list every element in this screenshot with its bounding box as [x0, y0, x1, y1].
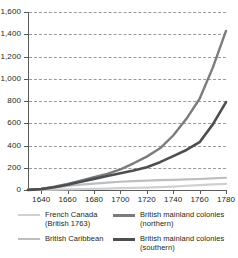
series-line — [28, 31, 226, 190]
x-axis-label: 1680 — [85, 196, 103, 204]
legend-swatch-icon — [113, 238, 135, 241]
x-axis-label: 1760 — [190, 196, 208, 204]
x-axis-tick — [94, 190, 95, 194]
y-axis-label: 800 — [7, 97, 21, 105]
legend-label: British Caribbean — [45, 234, 103, 243]
legend-item[interactable]: French Canada (British 1763) — [18, 210, 113, 228]
x-axis-tick — [120, 190, 121, 194]
line-chart: 02004006008001,0001,2001,4001,600 164016… — [0, 0, 238, 258]
y-axis-label: 1,600 — [0, 8, 21, 16]
legend-label: French Canada (British 1763) — [45, 210, 97, 228]
legend-item[interactable]: British mainland colonies (southern) — [113, 234, 232, 252]
y-axis-label: 1,400 — [0, 30, 21, 38]
legend-row: French Canada (British 1763)British main… — [18, 210, 232, 228]
legend-item[interactable]: British mainland colonies (northern) — [113, 210, 232, 228]
x-axis-tick — [68, 190, 69, 194]
y-axis-label: 600 — [7, 119, 21, 127]
y-axis-label: 200 — [7, 164, 21, 172]
x-axis-label: 1660 — [58, 196, 76, 204]
y-axis-label: 400 — [7, 142, 21, 150]
y-axis-label: 1,200 — [0, 53, 21, 61]
x-axis-tick — [173, 190, 174, 194]
legend-label: British mainland colonies (southern) — [140, 234, 232, 252]
y-axis-label: 1,000 — [0, 75, 21, 83]
x-axis-label: 1700 — [111, 196, 129, 204]
legend-item[interactable]: British Caribbean — [18, 234, 113, 243]
y-axis-label: 0 — [16, 186, 21, 194]
x-axis-label: 1740 — [164, 196, 182, 204]
legend-swatch-icon — [18, 238, 40, 240]
series-group — [28, 12, 226, 190]
x-axis-label: 1640 — [32, 196, 50, 204]
legend-label: British mainland colonies (northern) — [140, 210, 232, 228]
x-axis-tick — [147, 190, 148, 194]
plot-area: 02004006008001,0001,2001,4001,600 164016… — [28, 12, 226, 190]
x-axis-label: 1780 — [217, 196, 235, 204]
x-axis-tick — [200, 190, 201, 194]
legend-swatch-icon — [18, 214, 40, 216]
chart-legend: French Canada (British 1763)British main… — [18, 210, 232, 258]
series-line — [28, 102, 226, 190]
x-axis-label: 1720 — [138, 196, 156, 204]
legend-row: British CaribbeanBritish mainland coloni… — [18, 234, 232, 252]
legend-swatch-icon — [113, 214, 135, 217]
x-axis-tick — [226, 190, 227, 194]
